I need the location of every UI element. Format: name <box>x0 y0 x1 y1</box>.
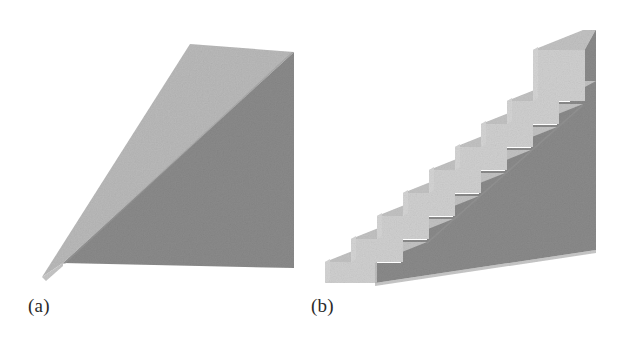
step-4-riser <box>403 193 455 216</box>
step-6-riser <box>455 147 507 170</box>
step-6-left-end <box>455 144 460 170</box>
step-5-riser <box>429 170 481 193</box>
step-8-left-end <box>507 98 512 124</box>
step-9-riser <box>533 50 585 101</box>
step-9-left-end <box>533 47 538 101</box>
panel-label-b: (b) <box>311 296 334 315</box>
step-8-riser <box>507 101 559 124</box>
step-1-riser <box>325 262 377 283</box>
step-1-left-end <box>325 259 330 283</box>
step-3-left-end <box>377 213 382 239</box>
step-2-left-end <box>351 236 356 262</box>
step-4-left-end <box>403 190 408 216</box>
step-3-riser <box>377 216 429 239</box>
step-2-riser <box>351 239 403 262</box>
panel-label-a: (a) <box>28 296 50 315</box>
step-5-left-end <box>429 167 434 193</box>
figure-root: (a) (b) <box>0 0 624 350</box>
step-7-riser <box>481 124 533 147</box>
step-7-left-end <box>481 121 486 147</box>
